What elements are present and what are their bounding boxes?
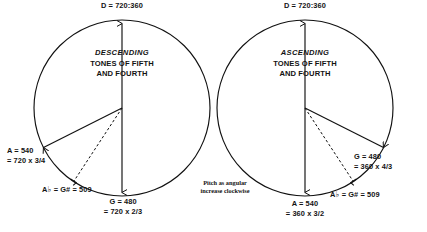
ascending-ray-aflat-arrowhead: [351, 179, 357, 185]
descending-label-a: A = 540 = 720 x 3/4: [7, 146, 45, 165]
pitch-caption-line1: Pitch as angular: [203, 179, 247, 186]
ascending-label-d: D = 720:360: [245, 1, 365, 10]
descending-label-g-line1: G = 480: [109, 197, 136, 206]
ascending-label-aflat: A♭ = G# = 509: [330, 190, 380, 199]
ascending-heading-line2: TONES OF FIFTH: [273, 59, 337, 68]
pitch-caption-line2: increase clockwise: [200, 187, 249, 194]
ascending-label-aflat-rest: = G# = 509: [340, 190, 380, 199]
ascending-ray-g: [305, 108, 384, 148]
descending-heading-line2: TONES OF FIFTH: [90, 59, 154, 68]
ascending-label-g-line1: G = 480: [354, 152, 381, 161]
descending-label-aflat: A♭ = G# = 509: [42, 185, 92, 194]
descending-label-g-line2: = 720 x 2/3: [104, 207, 142, 216]
descending-ray-aflat: [74, 108, 122, 181]
descending-label-g: G = 480 = 720 x 2/3: [82, 197, 164, 216]
ascending-heading: ASCENDING TONES OF FIFTH AND FOURTH: [245, 48, 365, 80]
diagram-root: D = 720:360 DESCENDING TONES OF FIFTH AN…: [0, 0, 427, 232]
ascending-heading-italic: ASCENDING: [281, 48, 330, 57]
descending-heading-line3: AND FOURTH: [96, 69, 147, 78]
ascending-label-a-line1: A = 540: [292, 199, 319, 208]
ascending-heading-line3: AND FOURTH: [279, 69, 330, 78]
ascending-label-a: A = 540 = 360 x 3/2: [264, 199, 346, 218]
ascending-ray-aflat: [305, 108, 353, 181]
descending-label-a-line1: A = 540: [7, 146, 34, 155]
ascending-label-g-line2: = 360 x 4/3: [354, 162, 392, 171]
descending-heading: DESCENDING TONES OF FIFTH AND FOURTH: [62, 48, 182, 80]
descending-ray-a: [44, 108, 123, 148]
ascending-label-a-line2: = 360 x 3/2: [286, 209, 324, 218]
descending-label-d: D = 720:360: [0, 1, 244, 10]
pitch-caption-note: Pitch as angular increase clockwise: [182, 179, 268, 196]
descending-label-aflat-rest: = G# = 509: [52, 185, 92, 194]
descending-heading-italic: DESCENDING: [95, 48, 149, 57]
ascending-label-g: G = 480 = 360 x 4/3: [354, 152, 392, 171]
descending-label-a-line2: = 720 x 3/4: [7, 156, 45, 165]
